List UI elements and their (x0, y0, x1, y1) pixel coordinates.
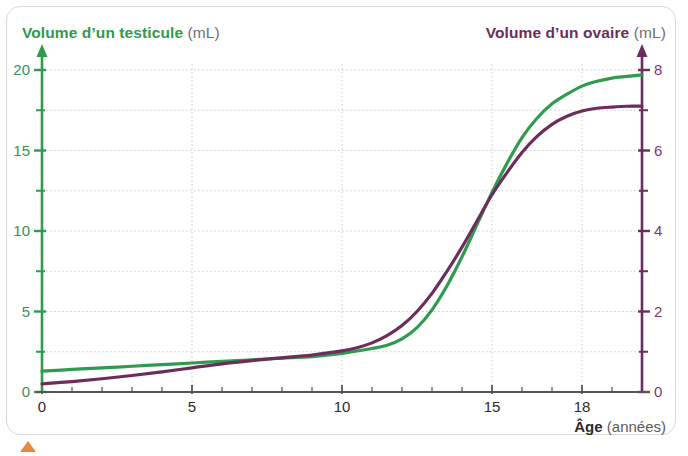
right-tick-label: 4 (654, 222, 662, 239)
figure-container: Volume d’un testicule (mL) Volume d’un o… (0, 0, 688, 456)
right-tick-label: 8 (654, 61, 662, 78)
x-tick-label: 15 (472, 398, 512, 415)
grid-lines (42, 64, 642, 392)
right-tick-label: 0 (654, 383, 662, 400)
right-tick-label: 2 (654, 303, 662, 320)
series-line-testicule (42, 75, 642, 371)
x-tick-label: 18 (562, 398, 602, 415)
right-axis-arrow (637, 44, 648, 57)
x-tick-label: 10 (322, 398, 362, 415)
x-tick-label: 0 (22, 398, 62, 415)
left-tick-label: 20 (13, 61, 30, 78)
axis-lines (36, 44, 650, 392)
x-tick-label: 5 (172, 398, 212, 415)
left-tick-label: 10 (13, 222, 30, 239)
left-axis-arrow (37, 44, 48, 57)
orange-triangle-marker (20, 441, 36, 452)
chart-plot-area (0, 0, 688, 456)
left-tick-label: 15 (13, 142, 30, 159)
right-tick-label: 6 (654, 142, 662, 159)
left-tick-label: 5 (22, 303, 30, 320)
